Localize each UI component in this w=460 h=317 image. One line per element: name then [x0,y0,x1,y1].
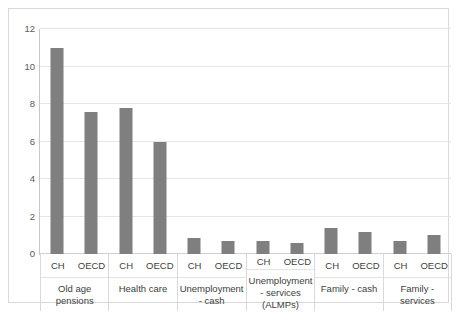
y-axis-tick-label: 8 [11,99,35,109]
bar[interactable] [188,238,201,254]
y-axis-tick-label: 0 [11,249,35,259]
x-axis-series-row: CHOECD [109,254,176,278]
chart-plot-frame: 024681012 CHOECDOld age pensionsCHOECDHe… [8,8,449,303]
x-axis-group-label: Unemployment - cash [178,278,246,311]
y-axis-tick-label: 12 [11,24,35,34]
bar[interactable] [119,108,132,254]
x-axis-series-label: OECD [212,254,246,277]
x-axis-group-cell: CHOECDFamily - services [383,254,452,311]
x-axis-series-label: OECD [349,254,383,277]
x-axis-series-row: CHOECD [315,254,382,278]
bars-layer [40,29,451,254]
x-axis-series-label: CH [247,254,281,269]
x-axis-series-label: OECD [280,254,314,269]
bar[interactable] [290,243,303,254]
y-axis-tick-labels: 024681012 [9,29,35,254]
y-axis-tick-label: 2 [11,212,35,222]
x-axis-series-label: OECD [75,254,109,277]
bar[interactable] [153,142,166,255]
bar[interactable] [393,241,406,254]
x-axis-series-label: CH [384,254,418,277]
x-axis-group-label: Unemployment - services (ALMPs) [247,270,315,311]
x-axis-group-label: Health care [109,278,176,311]
y-axis-tick-label: 10 [11,62,35,72]
x-axis-series-row: CHOECD [384,254,451,278]
x-axis-group-cell: CHOECDUnemployment - cash [177,254,247,311]
bar[interactable] [427,235,440,254]
x-axis-series-label: OECD [143,254,177,277]
x-axis-group-label: Old age pensions [41,278,108,311]
x-axis-group-cell: CHOECDOld age pensions [40,254,109,311]
x-axis-series-label: CH [109,254,143,277]
x-axis-group-cell: CHOECDHealth care [108,254,177,311]
x-axis-series-label: OECD [417,254,451,277]
x-axis-series-label: CH [41,254,75,277]
x-axis-group-cell: CHOECDUnemployment - services (ALMPs) [246,254,316,311]
x-axis-series-row: CHOECD [41,254,108,278]
y-axis-tick-label: 6 [11,137,35,147]
x-axis-group-label: Family - services [384,278,451,311]
y-axis-tick-label: 4 [11,174,35,184]
x-axis-series-label: CH [178,254,212,277]
bar[interactable] [51,48,64,254]
x-axis-label-table: CHOECDOld age pensionsCHOECDHealth careC… [40,254,451,311]
x-axis-series-row: CHOECD [178,254,246,278]
x-axis-group-cell: CHOECDFamily - cash [314,254,383,311]
x-axis-series-row: CHOECD [247,254,315,270]
bar[interactable] [359,232,372,255]
plot-area [40,29,451,254]
bar[interactable] [325,228,338,254]
bar[interactable] [222,241,235,254]
x-axis-group-label: Family - cash [315,278,382,311]
bar[interactable] [256,241,269,254]
x-axis-series-label: CH [315,254,349,277]
bar[interactable] [85,112,98,255]
chart-container: 024681012 CHOECDOld age pensionsCHOECDHe… [0,0,460,317]
